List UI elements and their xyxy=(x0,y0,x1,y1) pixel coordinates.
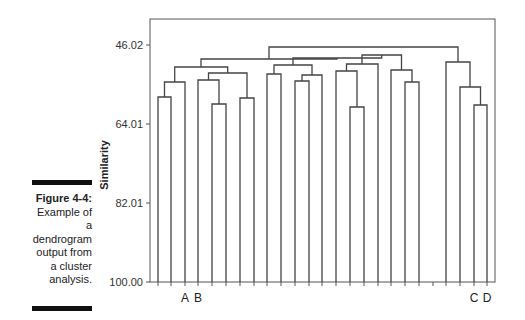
leaf-label-b: B xyxy=(194,291,202,305)
dendrogram-branches xyxy=(158,47,487,282)
leaf-label-a: A xyxy=(181,291,189,305)
y-axis-label: Similarity xyxy=(98,139,110,189)
y-tick-82: 82.01 xyxy=(115,197,143,209)
leaf-label-d: D xyxy=(483,291,492,305)
leaf-label-c: C xyxy=(470,291,479,305)
y-tick-46: 46.02 xyxy=(115,39,143,51)
y-axis xyxy=(146,45,150,282)
x-axis-ticks xyxy=(158,282,487,286)
y-tick-100: 100.00 xyxy=(109,276,143,288)
y-tick-64: 64.01 xyxy=(115,118,143,130)
dendrogram-chart: 46.02 64.01 82.01 100.00 Similarity xyxy=(0,0,525,320)
